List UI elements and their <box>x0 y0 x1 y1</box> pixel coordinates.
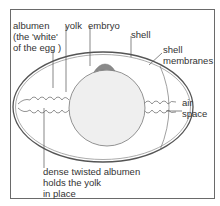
leader-membranes <box>149 53 162 65</box>
label-albumen: albumen (the 'white' of the egg ) <box>13 20 61 53</box>
chalaza-left <box>18 97 69 113</box>
label-embryo: embryo <box>88 20 120 31</box>
yolk <box>69 70 145 146</box>
label-shell-membranes: shell membranes <box>163 44 213 66</box>
label-shell: shell <box>131 29 151 40</box>
air-space-membrane <box>160 66 169 150</box>
label-chalaza: dense twisted albumen holds the yolk in … <box>43 166 140 199</box>
label-air-space: air space <box>182 97 207 119</box>
label-yolk: yolk <box>65 20 82 31</box>
